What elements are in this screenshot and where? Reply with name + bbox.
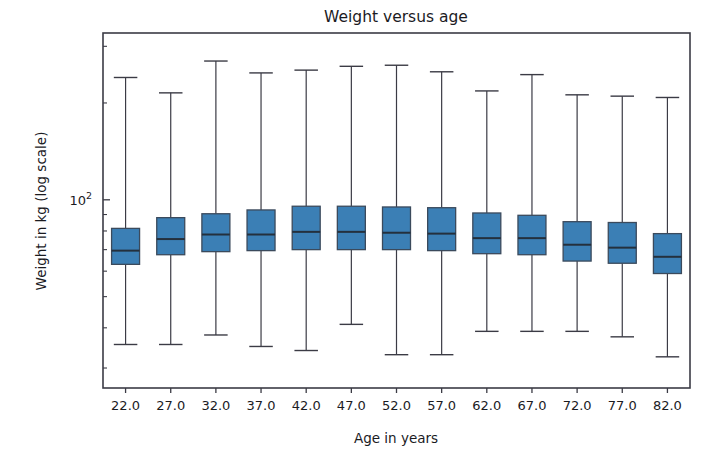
x-axis-tick-label: 82.0 xyxy=(653,398,682,413)
x-axis-tick-label: 37.0 xyxy=(247,398,276,413)
box-body xyxy=(428,208,456,251)
box-body xyxy=(608,223,636,264)
x-axis-tick-label: 67.0 xyxy=(517,398,546,413)
box-plot-canvas: Weight versus age Weight in kg (log scal… xyxy=(0,0,716,466)
box-body xyxy=(292,206,320,249)
x-axis-tick-label: 62.0 xyxy=(472,398,501,413)
x-axis-tick-label: 22.0 xyxy=(111,398,140,413)
chart-title: Weight versus age xyxy=(324,8,468,26)
x-axis-tick-label: 27.0 xyxy=(156,398,185,413)
x-axis-tick-label: 77.0 xyxy=(608,398,637,413)
box-body xyxy=(247,210,275,251)
box-body xyxy=(653,234,681,274)
box-body xyxy=(202,214,230,252)
chart-figure: Weight versus age Weight in kg (log scal… xyxy=(0,0,716,466)
x-axis-tick-label: 47.0 xyxy=(337,398,366,413)
box-body xyxy=(473,213,501,254)
box-body xyxy=(383,207,411,250)
box-body xyxy=(112,228,140,264)
y-axis-label: Weight in kg (log scale) xyxy=(33,132,49,291)
x-axis-tick-label: 42.0 xyxy=(292,398,321,413)
x-axis-tick-label: 57.0 xyxy=(427,398,456,413)
x-axis-tick-label: 32.0 xyxy=(201,398,230,413)
box-body xyxy=(563,222,591,261)
y-axis-label-text: Weight in kg (log scale) xyxy=(33,132,49,291)
box-body xyxy=(518,215,546,254)
x-axis-tick-label: 52.0 xyxy=(382,398,411,413)
box-body xyxy=(157,218,185,255)
box-body xyxy=(337,206,365,249)
x-axis-tick-label: 72.0 xyxy=(563,398,592,413)
x-axis-label-text: Age in years xyxy=(354,430,438,446)
